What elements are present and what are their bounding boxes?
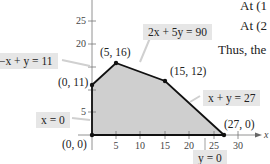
side-text-line-3: Thus, the (218, 42, 266, 58)
vertex-label-5-16: (5, 16) (100, 45, 131, 59)
y-tick-labels: 5 20 25 (76, 15, 86, 117)
svg-text:10: 10 (135, 140, 145, 151)
svg-text:5: 5 (81, 106, 86, 117)
vertex-label-27-0: (27, 0) (224, 117, 255, 131)
constraint-label-x-0: x = 0 (36, 112, 70, 128)
svg-text:30: 30 (233, 140, 243, 151)
side-text-line-1: At (1 (240, 0, 267, 14)
linear-programming-graph: 5 10 15 20 25 30 5 20 25 x (0, 0, 270, 164)
vertex-label-15-12: (15, 12) (170, 64, 206, 78)
svg-text:15: 15 (160, 140, 170, 151)
svg-text:25: 25 (76, 15, 86, 26)
svg-text:20: 20 (76, 38, 86, 49)
constraint-label-y-0: y = 0 (193, 150, 227, 164)
x-axis-arrow-icon (255, 133, 262, 138)
constraint-label-2x-5y-90: 2x + 5y = 90 (143, 24, 212, 40)
vertex-label-0-11: (0, 11) (58, 75, 88, 89)
constraint-label-x-y-27: x + y = 27 (203, 90, 260, 106)
vertex-label-0-0: (0, 0) (62, 137, 87, 151)
constraint-label-neg-x-y-11: −x + y = 11 (0, 53, 58, 69)
svg-text:5: 5 (114, 140, 119, 151)
x-axis-label: x (263, 129, 269, 140)
side-text-line-2: At (2 (240, 18, 267, 34)
